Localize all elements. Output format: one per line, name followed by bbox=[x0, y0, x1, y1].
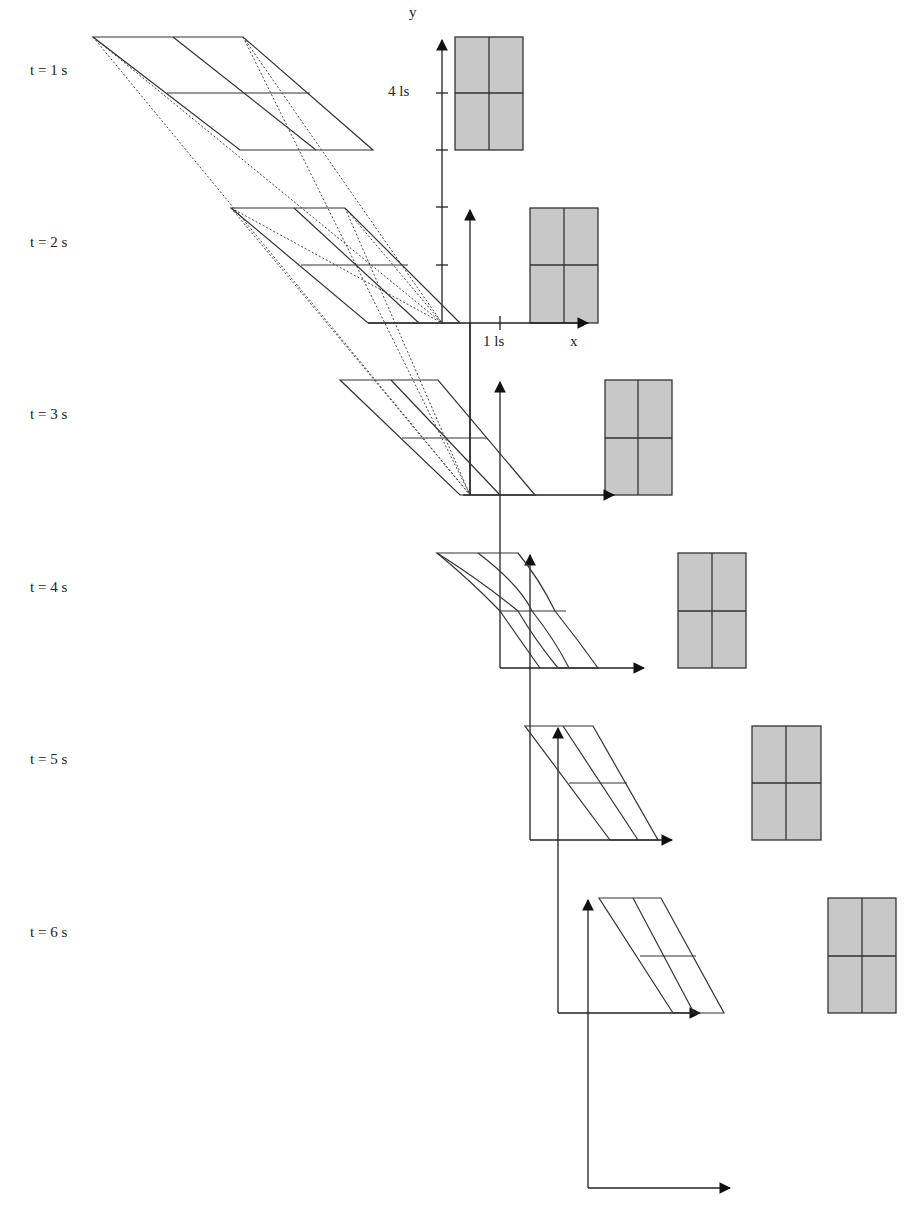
time-label-t5: t = 5 s bbox=[30, 751, 67, 768]
time-label-t6: t = 6 s bbox=[30, 924, 67, 941]
grid-t4 bbox=[437, 553, 598, 668]
y-axis-label: y bbox=[409, 4, 417, 21]
gray-box-t6 bbox=[828, 898, 896, 1013]
time-label-t2: t = 2 s bbox=[30, 234, 67, 251]
grid-t3 bbox=[340, 380, 535, 495]
grid-t6 bbox=[599, 898, 724, 1013]
axes-t6 bbox=[588, 900, 730, 1188]
gray-boxes bbox=[455, 37, 896, 1013]
grid-t2 bbox=[231, 208, 460, 323]
gray-box-t1 bbox=[455, 37, 523, 150]
spacetime-diagram bbox=[0, 0, 920, 1215]
light-ray-lines bbox=[93, 37, 470, 495]
sheared-grids bbox=[93, 37, 724, 1013]
gray-box-t5 bbox=[752, 726, 821, 840]
axes-t4 bbox=[530, 555, 672, 840]
grid-t1 bbox=[93, 37, 373, 150]
grid-t5 bbox=[525, 726, 658, 840]
time-label-t1: t = 1 s bbox=[30, 62, 67, 79]
time-label-t4: t = 4 s bbox=[30, 579, 67, 596]
time-label-t3: t = 3 s bbox=[30, 406, 67, 423]
axes-t5 bbox=[558, 728, 700, 1013]
gray-box-t2 bbox=[530, 208, 598, 323]
gray-box-t4 bbox=[678, 553, 746, 668]
gray-box-t3 bbox=[605, 380, 672, 495]
x-tick-label: 1 ls bbox=[483, 333, 504, 350]
y-tick-label: 4 ls bbox=[388, 83, 409, 100]
x-axis-label: x bbox=[570, 333, 578, 350]
